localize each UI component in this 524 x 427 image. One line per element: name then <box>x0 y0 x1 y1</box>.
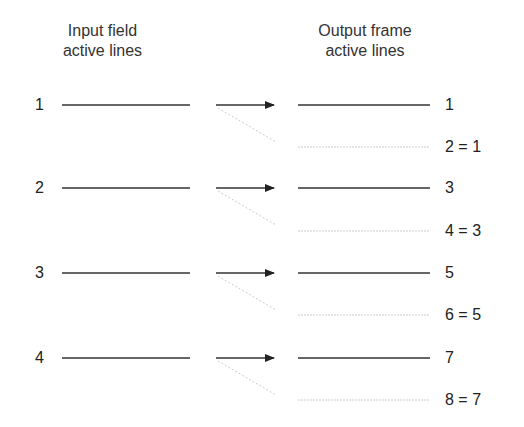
output-label-2: 2 = 1 <box>445 138 481 156</box>
output-label-3: 3 <box>445 179 454 197</box>
output-label-5: 5 <box>445 264 454 282</box>
output-label-8: 8 = 7 <box>445 391 481 409</box>
output-label-6: 6 = 5 <box>445 306 481 324</box>
input-label-3: 3 <box>35 264 44 282</box>
input-label-1: 1 <box>35 96 44 114</box>
input-label-2: 2 <box>35 179 44 197</box>
repeat-arrow-2 <box>218 191 276 225</box>
output-label-4: 4 = 3 <box>445 222 481 240</box>
output-label-1: 1 <box>445 96 454 114</box>
repeat-arrow-1 <box>218 108 276 142</box>
input-label-4: 4 <box>35 349 44 367</box>
repeat-arrow-3 <box>218 276 276 310</box>
repeat-arrow-4 <box>218 361 276 395</box>
output-label-7: 7 <box>445 349 454 367</box>
